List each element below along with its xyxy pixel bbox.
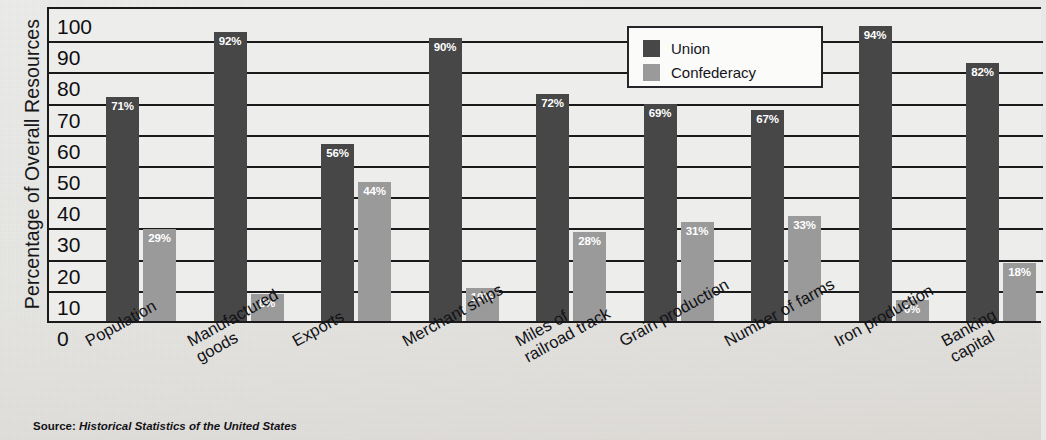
bar-value-label: 92% <box>214 35 247 48</box>
y-axis-tick-label: 20 <box>57 266 80 287</box>
y-axis-tick-label: 50 <box>57 172 80 193</box>
source-text: Historical Statistics of the United Stat… <box>79 420 297 432</box>
bar-value-label: 90% <box>429 41 462 54</box>
bar-value-label: 56% <box>321 147 354 160</box>
y-axis-title: Percentage of Overall Resources <box>18 4 46 324</box>
gridline <box>49 41 1043 43</box>
bar-value-label: 71% <box>106 100 139 113</box>
bar-union: 92% <box>214 32 247 321</box>
x-axis-category-labels: PopulationManufactured goodsExportsMerch… <box>0 323 1041 418</box>
bar-union: 69% <box>644 104 677 321</box>
y-axis-tick-label: 10 <box>57 297 80 318</box>
legend-item-union: Union <box>643 36 821 60</box>
bar-value-label: 31% <box>681 225 714 238</box>
y-axis-tick-label: 40 <box>57 203 80 224</box>
bar-value-label: 33% <box>788 219 821 232</box>
bar-union: 56% <box>321 144 354 321</box>
bar-value-label: 94% <box>859 29 892 42</box>
bar-value-label: 72% <box>536 97 569 110</box>
bar-value-label: 82% <box>966 66 999 79</box>
y-axis-tick-label: 80 <box>57 78 80 99</box>
bar-value-label: 44% <box>358 185 391 198</box>
y-axis-tick-label: 70 <box>57 110 80 131</box>
bar-union: 71% <box>106 97 139 321</box>
legend-label-confederacy: Confederacy <box>671 65 756 80</box>
gridline <box>49 72 1043 74</box>
y-axis-tick-label: 100 <box>57 16 92 37</box>
bar-union: 94% <box>859 26 892 321</box>
y-axis-tick-label: 30 <box>57 234 80 255</box>
bar-value-label: 29% <box>143 232 176 245</box>
chart-legend: Union Confederacy <box>627 26 823 88</box>
source-prefix: Source: <box>33 420 76 432</box>
y-axis-tick-label: 90 <box>57 47 80 68</box>
bar-union: 82% <box>966 63 999 321</box>
bar-union: 90% <box>429 38 462 321</box>
source-note: Source: Historical Statistics of the Uni… <box>33 420 297 432</box>
bar-value-label: 69% <box>644 107 677 120</box>
y-axis-tick-label: 60 <box>57 141 80 162</box>
chart-plot-area: 1009080706050403020100 71%29%92%8%56%44%… <box>47 7 1041 323</box>
bar-union: 72% <box>536 94 569 321</box>
bar-confederacy: 44% <box>358 182 391 321</box>
bar-value-label: 28% <box>573 235 606 248</box>
legend-swatch-confederacy <box>643 64 660 81</box>
bar-value-label: 67% <box>751 113 784 126</box>
legend-swatch-union <box>643 40 660 57</box>
legend-item-confederacy: Confederacy <box>643 60 821 84</box>
bar-union: 67% <box>751 110 784 321</box>
bar-value-label: 18% <box>1003 266 1036 279</box>
legend-label-union: Union <box>671 41 710 56</box>
